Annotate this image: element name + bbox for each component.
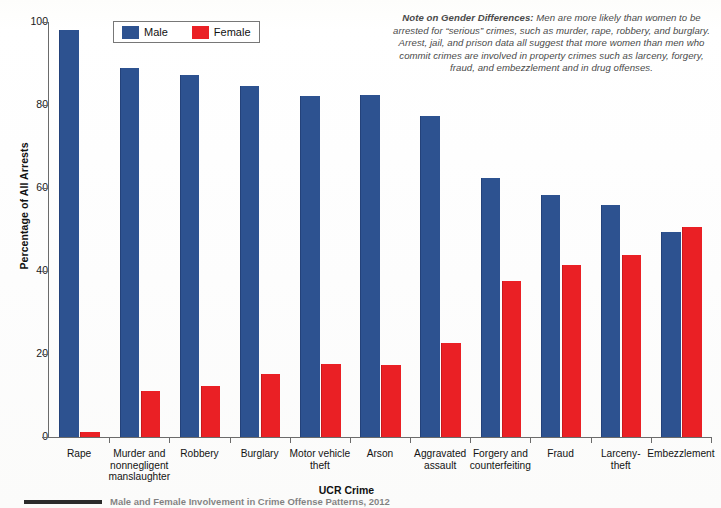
gender-differences-note: Note on Gender Differences: Men are more… [389, 12, 714, 75]
x-tick-mark [711, 437, 712, 443]
x-tick-mark [109, 437, 110, 443]
bar-female [141, 391, 161, 437]
x-axis-line [48, 437, 711, 438]
category-label-line: manslaughter [101, 471, 177, 483]
bar-group [591, 22, 651, 437]
bar-male [59, 30, 79, 437]
legend-item-male: Male [122, 26, 168, 39]
bar-group [470, 22, 530, 437]
bar-group [530, 22, 590, 437]
chart-legend: Male Female [113, 21, 260, 43]
bar-female [321, 364, 341, 437]
x-tick-mark [350, 437, 351, 443]
bar-male [541, 195, 561, 437]
y-tick-mark [42, 271, 48, 272]
category-label: Embezzlement [643, 448, 719, 460]
bar-group [290, 22, 350, 437]
x-tick-mark [169, 437, 170, 443]
bar-female [261, 374, 281, 437]
y-tick-0: 0 [0, 437, 48, 438]
bar-group [350, 22, 410, 437]
category-label-line: theft [583, 460, 659, 472]
bar-group [230, 22, 290, 437]
bar-group [651, 22, 711, 437]
x-tick-mark [290, 437, 291, 443]
bar-female [441, 343, 461, 437]
y-tick-mark [42, 437, 48, 438]
x-tick-mark [470, 437, 471, 443]
category-label-line: Embezzlement [643, 448, 719, 460]
caption-rule [24, 500, 102, 504]
bar-group [410, 22, 470, 437]
x-tick-mark [230, 437, 231, 443]
legend-swatch-male-icon [122, 26, 139, 39]
y-tick-mark [42, 188, 48, 189]
bar-male [300, 96, 320, 437]
bar-female [502, 281, 522, 437]
bar-male [120, 68, 140, 437]
x-axis-label-text: UCR Crime [319, 484, 374, 496]
bar-male [180, 75, 200, 437]
bar-female [622, 255, 642, 437]
y-tick-100: 100 [0, 22, 48, 23]
bar-male [481, 178, 501, 437]
y-tick-20: 20 [0, 354, 48, 355]
bar-group [109, 22, 169, 437]
x-tick-mark [591, 437, 592, 443]
legend-label-male: Male [144, 27, 168, 38]
y-tick-mark [42, 105, 48, 106]
note-heading: Note on Gender Differences: [402, 12, 533, 23]
bar-female [80, 432, 100, 437]
y-tick-mark [42, 22, 48, 23]
x-tick-mark [410, 437, 411, 443]
bar-male [240, 86, 260, 437]
y-tick-mark [42, 354, 48, 355]
x-tick-mark [651, 437, 652, 443]
category-label-line: theft [282, 460, 358, 472]
bar-female [201, 386, 221, 437]
bar-male [420, 116, 440, 437]
caption-text: Male and Female Involvement in Crime Off… [110, 498, 390, 507]
bar-male [601, 205, 621, 437]
bar-male [661, 232, 681, 437]
bar-female [562, 265, 582, 437]
x-axis-label: UCR Crime [0, 484, 721, 496]
y-axis-label: Percentage of All Arrests [18, 106, 30, 306]
category-label-line: nonnegligent [101, 460, 177, 472]
bar-group [169, 22, 229, 437]
bar-group [49, 22, 109, 437]
bar-chart: 020406080100 Percentage of All Arrests R… [0, 0, 721, 508]
bar-male [360, 95, 380, 437]
x-tick-mark [530, 437, 531, 443]
figure-caption: Male and Female Involvement in Crime Off… [0, 498, 721, 508]
legend-swatch-female-icon [192, 26, 209, 39]
bars-container [49, 22, 711, 437]
legend-label-female: Female [214, 27, 251, 38]
category-label-line: counterfeiting [462, 460, 538, 472]
bar-female [381, 365, 401, 437]
bar-female [682, 227, 702, 437]
legend-item-female: Female [192, 26, 251, 39]
